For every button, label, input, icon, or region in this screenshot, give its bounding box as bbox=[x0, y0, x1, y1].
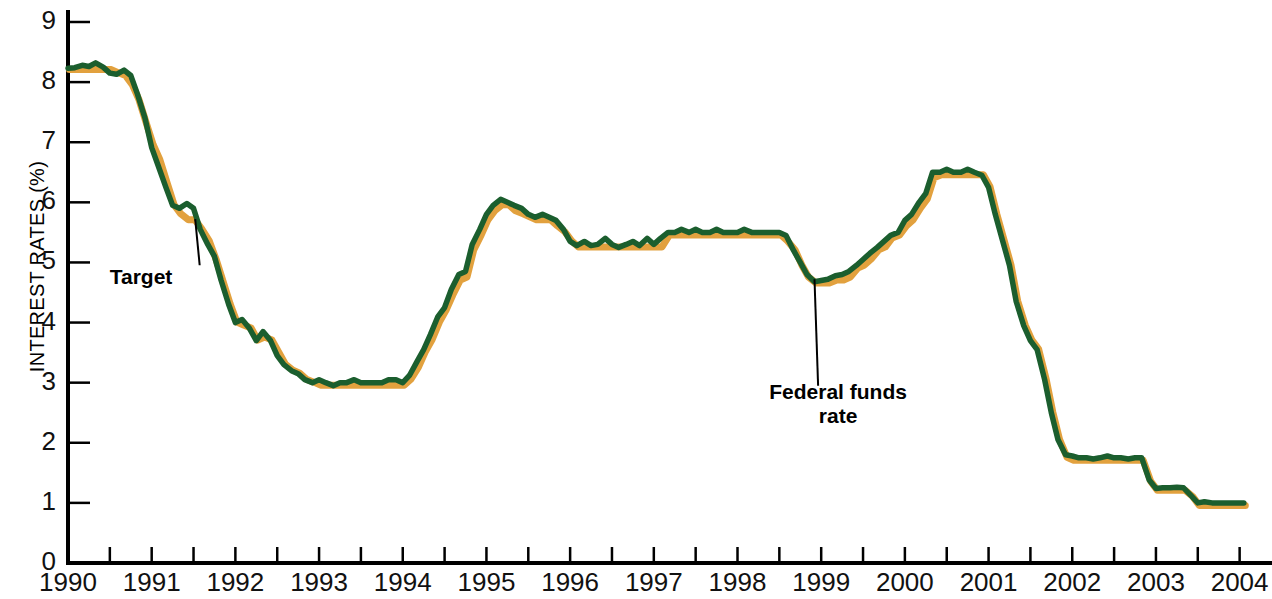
annotation-ffr-line2: rate bbox=[819, 404, 858, 427]
annotation-target: Target bbox=[110, 265, 173, 289]
x-tick-label: 1993 bbox=[274, 567, 364, 598]
x-tick-label: 1990 bbox=[23, 567, 113, 598]
y-tick-label: 1 bbox=[16, 486, 56, 517]
y-tick-label: 5 bbox=[16, 245, 56, 276]
x-tick-label: 1991 bbox=[107, 567, 197, 598]
annotation-target-text: Target bbox=[110, 265, 173, 288]
y-tick-label: 8 bbox=[16, 65, 56, 96]
y-tick-label: 9 bbox=[16, 5, 56, 36]
annotation-federal-funds-rate: Federal funds rate bbox=[738, 380, 938, 428]
x-tick-label: 1996 bbox=[525, 567, 615, 598]
x-tick-label: 1995 bbox=[441, 567, 531, 598]
x-tick-label: 2001 bbox=[944, 567, 1034, 598]
chart-series bbox=[68, 63, 1245, 506]
leader-line-federal-funds-rate bbox=[814, 279, 818, 386]
x-tick-label: 1998 bbox=[693, 567, 783, 598]
y-tick-label: 2 bbox=[16, 426, 56, 457]
x-tick-label: 2002 bbox=[1027, 567, 1117, 598]
x-tick-label: 2004 bbox=[1195, 567, 1272, 598]
x-tick-label: 1994 bbox=[358, 567, 448, 598]
x-tick-label: 1999 bbox=[776, 567, 866, 598]
x-tick-label: 2003 bbox=[1111, 567, 1201, 598]
x-tick-label: 1992 bbox=[190, 567, 280, 598]
y-tick-label: 3 bbox=[16, 366, 56, 397]
y-tick-label: 6 bbox=[16, 185, 56, 216]
series-line-target bbox=[70, 70, 1246, 506]
annotation-leader-lines bbox=[195, 219, 818, 386]
annotation-ffr-line1: Federal funds bbox=[769, 380, 907, 403]
y-tick-label: 4 bbox=[16, 306, 56, 337]
chart-figure: INTEREST RATES (%) 0123456789 1990199119… bbox=[0, 0, 1272, 599]
x-tick-label: 2000 bbox=[860, 567, 950, 598]
y-tick-label: 7 bbox=[16, 125, 56, 156]
chart-axes bbox=[66, 10, 1272, 563]
x-tick-label: 1997 bbox=[609, 567, 699, 598]
series-line-federal-funds-rate bbox=[68, 63, 1244, 503]
interest-rates-line-chart bbox=[0, 0, 1272, 599]
